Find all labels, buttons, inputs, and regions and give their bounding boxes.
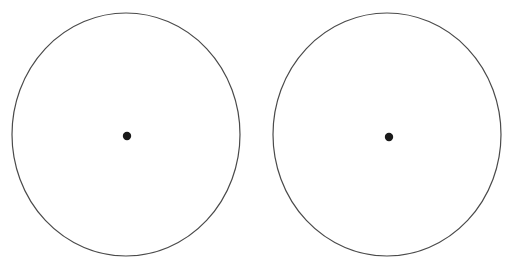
left-circle-center-dot (123, 132, 131, 140)
figure-canvas (0, 0, 518, 267)
right-circle-group (273, 13, 501, 256)
two-circles-figure (0, 0, 518, 267)
right-circle-center-dot (385, 133, 393, 141)
left-circle-group (12, 13, 240, 256)
